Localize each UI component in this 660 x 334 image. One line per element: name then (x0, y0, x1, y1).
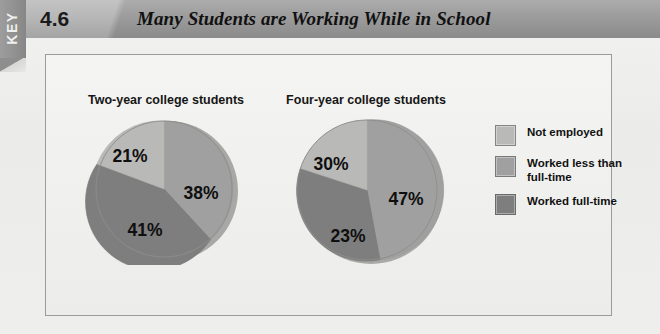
pie-slice-label: 41% (127, 220, 162, 240)
figure-number: 4.6 (40, 7, 69, 31)
figure-page: 4.6 Many Students are Working While in S… (0, 0, 660, 334)
pie-chart-four-year: Four-year college students 47% 23% 30% (268, 93, 464, 263)
pie-caption-four-year: Four-year college students (268, 93, 464, 107)
pie-slice-label: 23% (330, 226, 365, 246)
pie-slice-label: 38% (183, 183, 218, 203)
chart-legend: Not employed Worked less than full-time … (495, 124, 645, 224)
pie-slice-label: 21% (112, 146, 147, 166)
legend-label-not-employed: Not employed (527, 124, 603, 140)
legend-label-worked-less-than-full-time: Worked less than full-time (527, 155, 622, 184)
legend-swatch-worked-full-time (495, 194, 516, 215)
pie-chart-two-year: Two-year college students 38% 41% 21% (68, 93, 264, 263)
key-tab-folded-corner (0, 58, 26, 72)
legend-label-worked-full-time: Worked full-time (527, 193, 617, 209)
figure-title: Many Students are Working While in Schoo… (137, 8, 491, 30)
legend-swatch-not-employed (495, 125, 516, 146)
chart-panel: Two-year college students 38% 41% 21% Fo… (45, 54, 612, 316)
legend-item-worked-less-than-full-time: Worked less than full-time (495, 155, 645, 184)
pie-svg-two-year: 38% 41% 21% (68, 115, 264, 265)
legend-item-worked-full-time: Worked full-time (495, 193, 645, 215)
pie-caption-two-year: Two-year college students (68, 93, 264, 107)
legend-item-not-employed: Not employed (495, 124, 645, 146)
key-tab-label: KEY (4, 0, 20, 59)
pie-slice-label: 30% (313, 154, 348, 174)
pie-svg-four-year: 47% 23% 30% (268, 115, 464, 265)
pie-slice-label: 47% (388, 189, 423, 209)
legend-swatch-worked-less-than-full-time (495, 156, 516, 177)
